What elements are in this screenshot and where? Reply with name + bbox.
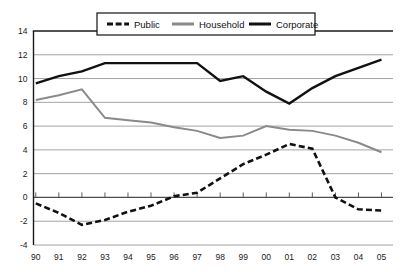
y-tick-label: 2 <box>23 169 28 179</box>
series-line-public <box>36 144 382 225</box>
x-tick-label: 05 <box>377 252 387 262</box>
x-tick-label: 96 <box>169 252 179 262</box>
x-tick-marks <box>36 192 382 197</box>
x-tick-label: 95 <box>146 252 156 262</box>
x-tick-label: 91 <box>54 252 64 262</box>
x-tick-label: 99 <box>238 252 248 262</box>
chart-canvas: 14121086420-2-4 909192939495969798990001… <box>0 0 407 272</box>
y-tick-label: 8 <box>23 97 28 107</box>
legend-label-corporate: Corporate <box>276 19 318 30</box>
y-tick-label: -4 <box>20 240 28 250</box>
gridlines <box>34 55 394 245</box>
x-tick-label: 03 <box>331 252 341 262</box>
y-tick-label: 12 <box>18 50 28 60</box>
y-tick-label: -2 <box>20 216 28 226</box>
x-tick-label: 92 <box>77 252 87 262</box>
data-series <box>36 60 382 225</box>
y-tick-label: 14 <box>18 26 28 36</box>
y-tick-label: 4 <box>23 145 28 155</box>
x-tick-label: 97 <box>192 252 202 262</box>
y-axis-tick-labels: 14121086420-2-4 <box>18 26 28 250</box>
legend-label-public: Public <box>134 19 160 30</box>
x-tick-label: 98 <box>215 252 225 262</box>
x-tick-label: 04 <box>354 252 364 262</box>
y-tick-label: 0 <box>23 192 28 202</box>
x-tick-label: 00 <box>262 252 272 262</box>
x-tick-label: 94 <box>123 252 133 262</box>
axis-lines <box>33 31 393 245</box>
x-tick-label: 01 <box>285 252 295 262</box>
x-tick-label: 93 <box>100 252 110 262</box>
line-chart: 14121086420-2-4 909192939495969798990001… <box>0 0 407 272</box>
x-tick-label: 02 <box>308 252 318 262</box>
chart-legend: PublicHouseholdCorporate <box>97 13 318 35</box>
y-tick-label: 10 <box>18 74 28 84</box>
x-tick-label: 90 <box>31 252 41 262</box>
x-axis-tick-labels: 90919293949596979899000102030405 <box>31 252 386 262</box>
legend-label-household: Household <box>199 19 244 30</box>
series-line-household <box>36 89 382 152</box>
y-tick-label: 6 <box>23 121 28 131</box>
